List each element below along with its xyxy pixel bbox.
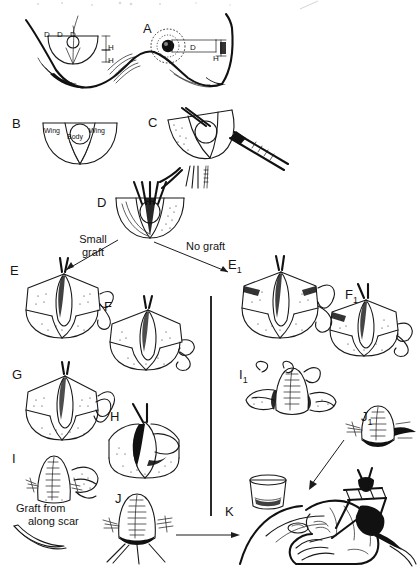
panel-i1-no-graft-sutured-nipple xyxy=(246,360,346,422)
panel-label-b: B xyxy=(12,117,21,130)
panel-d-elevated-flap xyxy=(112,182,188,242)
panel-label-e1: E1 xyxy=(228,258,242,275)
panel-label-f1: F1 xyxy=(345,288,358,305)
tattoo-machine xyxy=(310,468,416,566)
branch-label-small-graft: Small graft xyxy=(69,233,117,258)
dimension-label-d-right: D xyxy=(190,44,196,52)
panel-label-g: G xyxy=(12,368,22,381)
arrow-j-to-k xyxy=(176,528,246,542)
panel-c-flap-elevation xyxy=(160,108,290,190)
dimension-label-d-left-1: D xyxy=(44,31,50,39)
dimension-label-h-left-1: H xyxy=(108,44,114,52)
dimension-label-d-left-2: D xyxy=(57,31,63,39)
panel-label-j1-subscript: 1 xyxy=(368,417,373,427)
crescent-skin-graft xyxy=(12,524,74,554)
panel-label-d: D xyxy=(97,196,106,209)
panel-label-j1: J1 xyxy=(361,410,373,427)
column-divider xyxy=(210,296,212,516)
panel-label-k: K xyxy=(225,505,234,518)
panel-label-c: C xyxy=(148,116,157,129)
dimension-label-d-left-3: D xyxy=(70,31,76,39)
panel-label-f1-letter: F xyxy=(345,287,353,302)
panel-label-a: A xyxy=(143,22,152,35)
scan-noise-artifact xyxy=(0,0,418,12)
panel-label-f: F xyxy=(104,300,112,313)
panel-f-small-graft-wings-wrapped xyxy=(104,296,200,374)
panel-f1-no-graft-wings-wrapped xyxy=(324,284,416,358)
panel-label-i1-subscript: 1 xyxy=(243,375,248,385)
panel-label-h: H xyxy=(110,410,119,423)
panel-label-j: J xyxy=(115,492,122,505)
caption-line-1: Graft from xyxy=(16,502,66,514)
flap-label-body: Body xyxy=(67,133,83,140)
panel-label-i1: I1 xyxy=(239,368,248,385)
panel-j-small-graft-completed-nipple xyxy=(95,490,185,564)
panel-label-f1-subscript: 1 xyxy=(353,295,358,305)
branch-label-no-graft: No graft xyxy=(186,240,225,253)
dimension-label-h-right: H xyxy=(213,55,219,63)
panel-label-e1-letter: E xyxy=(228,257,237,272)
panel-label-e: E xyxy=(10,264,19,277)
flap-label-wing-right: Wing xyxy=(89,127,105,134)
pigment-cup xyxy=(250,475,286,509)
surgical-technique-figure: A D D D H H D H B Wing Body Wing xyxy=(0,0,418,573)
panel-b-flap-template xyxy=(40,118,120,170)
panel-label-e1-subscript: 1 xyxy=(237,265,242,275)
flap-label-wing-left: Wing xyxy=(44,127,60,134)
panel-k-areola-tattooing xyxy=(240,466,418,570)
dimension-label-h-left-2: H xyxy=(108,57,114,65)
panel-label-i: I xyxy=(12,452,16,465)
